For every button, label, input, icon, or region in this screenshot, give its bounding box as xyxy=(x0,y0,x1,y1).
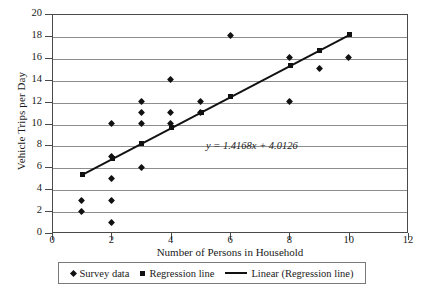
y-tick-label: 10 xyxy=(2,118,42,128)
y-tick-label: 16 xyxy=(2,52,42,62)
regression-equation-annotation: y = 1.4168x + 4.0126 xyxy=(206,140,298,151)
y-tick-label: 14 xyxy=(2,74,42,84)
x-tick-label: 8 xyxy=(269,234,309,245)
x-tick-label: 4 xyxy=(151,234,191,245)
x-tick-label: 12 xyxy=(388,234,425,245)
y-tick xyxy=(45,167,52,168)
y-tick xyxy=(45,124,52,125)
scatter-chart-figure: Vehicle Trips per Day Number of Persons … xyxy=(0,0,425,302)
y-tick-label: 4 xyxy=(2,183,42,193)
legend-diamond-icon xyxy=(69,269,76,276)
y-tick xyxy=(45,58,52,59)
chart-legend: Survey dataRegression lineLinear (Regres… xyxy=(58,262,366,284)
legend-item-label: Regression line xyxy=(149,268,214,279)
y-tick-label: 8 xyxy=(2,139,42,149)
y-tick-label: 20 xyxy=(2,8,42,18)
x-tick-label: 2 xyxy=(91,234,131,245)
legend-square-icon xyxy=(140,271,145,276)
legend-line-icon xyxy=(225,272,247,274)
regression-trend-line xyxy=(53,15,409,234)
legend-item: Linear (Regression line) xyxy=(225,268,353,279)
y-tick xyxy=(45,102,52,103)
y-tick xyxy=(45,211,52,212)
plot-area xyxy=(52,14,408,233)
y-tick-label: 6 xyxy=(2,161,42,171)
legend-item: Survey data xyxy=(71,268,130,279)
y-tick xyxy=(45,80,52,81)
y-tick-label: 2 xyxy=(2,205,42,215)
x-tick-label: 0 xyxy=(32,234,72,245)
y-tick-label: 12 xyxy=(2,96,42,106)
y-tick xyxy=(45,145,52,146)
y-tick xyxy=(45,14,52,15)
legend-item: Regression line xyxy=(140,268,214,279)
y-tick xyxy=(45,36,52,37)
legend-item-label: Survey data xyxy=(80,268,130,279)
legend-item-label: Linear (Regression line) xyxy=(251,268,353,279)
y-tick xyxy=(45,189,52,190)
x-axis-title: Number of Persons in Household xyxy=(52,246,408,258)
x-tick-label: 6 xyxy=(210,234,250,245)
x-tick-label: 10 xyxy=(329,234,369,245)
y-tick-label: 18 xyxy=(2,30,42,40)
